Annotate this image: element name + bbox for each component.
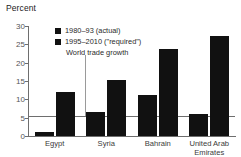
world-trade-growth-annotation-label: World trade growth — [66, 48, 128, 57]
bar — [210, 36, 229, 136]
legend-swatch-icon — [55, 39, 61, 45]
x-axis-label-line: Syria — [81, 139, 133, 148]
y-axis-tick-label: 15 — [16, 77, 25, 86]
bar — [107, 80, 126, 136]
chart-legend: 1980–93 (actual) 1995–2010 ("required") — [55, 25, 141, 47]
x-axis-label-line: Bahrain — [132, 139, 184, 148]
y-axis-tick-label: 25 — [16, 40, 25, 49]
world-trade-growth-pointer-line — [85, 55, 86, 116]
x-axis-label: United ArabEmirates — [184, 139, 236, 157]
y-axis-tick-label: 10 — [16, 95, 25, 104]
x-axis-label: Syria — [81, 139, 133, 148]
y-axis-tick-label: 30 — [16, 22, 25, 31]
y-axis-tick-label: 20 — [16, 58, 25, 67]
y-axis-tick-labels: 051015202530 — [0, 0, 25, 157]
x-axis-label: Bahrain — [132, 139, 184, 148]
legend-item-actual: 1980–93 (actual) — [55, 25, 141, 36]
x-axis-label-line: Emirates — [184, 148, 236, 157]
x-axis-line — [28, 136, 236, 137]
bar-chart: Percent 051015202530 1980–93 (actual) 19… — [0, 0, 241, 157]
bar — [159, 49, 178, 136]
legend-swatch-icon — [55, 28, 61, 34]
legend-label-actual: 1980–93 (actual) — [65, 26, 120, 35]
x-axis-label-line: United Arab — [184, 139, 236, 148]
x-axis-label: Egypt — [29, 139, 81, 148]
legend-label-required: 1995–2010 ("required") — [65, 37, 141, 46]
bar — [56, 92, 75, 136]
bar — [189, 114, 208, 136]
bar — [86, 112, 105, 136]
bar — [35, 132, 54, 136]
bar — [138, 95, 157, 136]
x-axis-label-line: Egypt — [29, 139, 81, 148]
legend-item-required: 1995–2010 ("required") — [55, 36, 141, 47]
